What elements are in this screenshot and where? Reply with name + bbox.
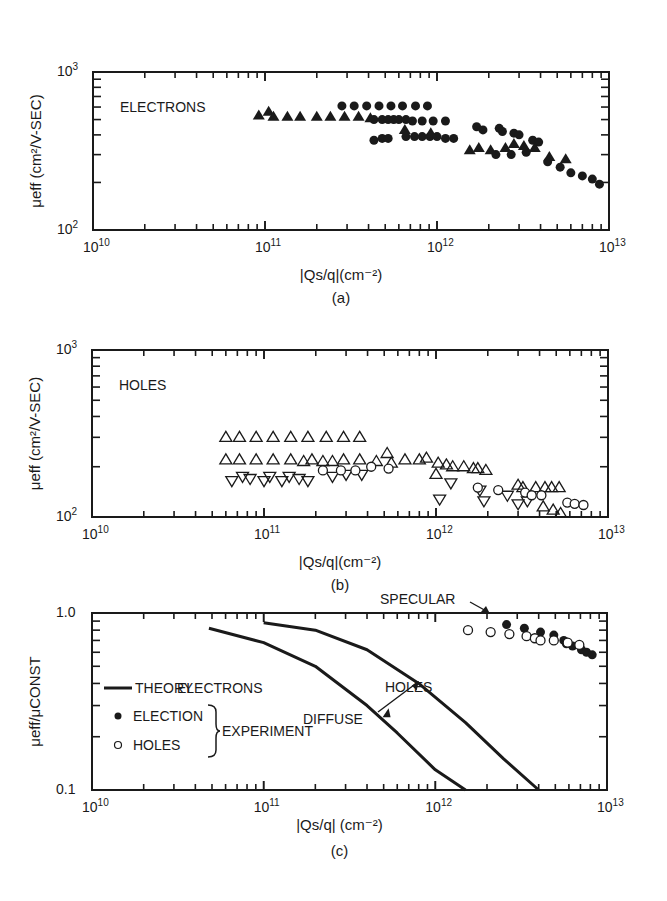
filled-triangle-marker — [281, 111, 293, 121]
filled-circle-marker — [410, 132, 419, 141]
open-triangle-up-marker — [285, 454, 297, 464]
open-triangle-up-marker — [233, 454, 245, 464]
y-axis-label: μeff/μCONST — [26, 656, 43, 746]
open-circle-marker — [494, 486, 503, 495]
filled-circle-marker — [398, 101, 407, 110]
open-circle-marker — [336, 466, 345, 475]
open-triangle-up-marker — [338, 431, 350, 441]
legend-experiment-label: EXPERIMENT — [222, 723, 313, 739]
open-circle-marker — [570, 499, 579, 508]
legend-holes-marker — [115, 742, 122, 749]
x-axis-label: |Qs/q| (cm⁻²) — [296, 816, 383, 833]
diffuse-arrowhead — [383, 708, 391, 717]
y-axis-label: μeff (cm²/V-SEC) — [27, 94, 44, 207]
open-circle-marker — [486, 628, 495, 637]
filled-triangle-marker — [339, 111, 351, 121]
filled-circle-marker — [337, 101, 346, 110]
x-tick-label: 1013 — [599, 237, 626, 255]
open-triangle-up-marker — [320, 431, 332, 441]
open-circle-marker — [367, 462, 376, 471]
y-tick-label: 0.1 — [56, 781, 76, 797]
filled-circle-marker — [478, 125, 487, 134]
filled-triangle-marker — [294, 111, 306, 121]
legend-holes-label: HOLES — [133, 737, 180, 753]
open-triangle-up-marker — [354, 454, 366, 464]
filled-circle-marker — [369, 136, 378, 145]
filled-circle-marker — [429, 116, 438, 125]
filled-circle-marker — [595, 180, 604, 189]
y-tick-label: 102 — [56, 506, 78, 524]
open-triangle-up-marker — [267, 431, 279, 441]
x-tick-label: 1013 — [597, 797, 624, 815]
open-circle-marker — [579, 500, 588, 509]
legend-electron-label: ELECTION — [133, 708, 203, 724]
open-triangle-up-marker — [250, 454, 262, 464]
open-triangle-down-marker — [326, 472, 338, 482]
open-triangle-up-marker — [220, 454, 232, 464]
open-triangle-down-marker — [302, 477, 314, 487]
legend-theory-label: THEORY — [135, 680, 194, 696]
filled-circle-marker — [502, 620, 511, 629]
panel-c: 10101011101210131.00.1μeff/μCONST|Qs/q| … — [26, 591, 624, 859]
open-circle-marker — [575, 640, 584, 649]
panel-caption: (c) — [331, 842, 349, 859]
filled-circle-marker — [449, 134, 458, 143]
filled-triangle-marker — [560, 153, 572, 163]
open-circle-marker — [318, 466, 327, 475]
open-triangle-down-marker — [258, 477, 270, 487]
filled-triangle-marker — [464, 144, 476, 154]
specular-label: SPECULAR — [380, 591, 455, 607]
filled-circle-marker — [362, 101, 371, 110]
filled-circle-marker — [418, 116, 427, 125]
open-triangle-up-marker — [430, 468, 442, 478]
open-circle-marker — [527, 491, 536, 500]
panel-caption: (a) — [332, 289, 350, 306]
panel-annotation: ELECTRONS — [120, 99, 206, 115]
open-triangle-down-marker — [478, 497, 490, 507]
theory-curve — [209, 628, 466, 790]
filled-circle-marker — [384, 134, 393, 143]
theory-curve — [264, 623, 539, 790]
filled-triangle-marker — [508, 138, 520, 148]
y-axis-label: μeff (cm²/V-SEC) — [26, 377, 43, 490]
x-tick-label: 1010 — [82, 797, 109, 815]
figure: 1010101110121013103102ELECTRONSμeff (cm²… — [0, 0, 667, 901]
x-axis-label: |Qs/q|(cm⁻²) — [299, 553, 381, 570]
x-tick-label: 1011 — [254, 797, 280, 815]
open-triangle-up-marker — [420, 452, 432, 462]
filled-circle-marker — [578, 171, 587, 180]
filled-circle-marker — [350, 101, 359, 110]
filled-triangle-marker — [399, 124, 411, 134]
filled-triangle-marker — [311, 111, 323, 121]
open-triangle-up-marker — [458, 461, 470, 471]
filled-triangle-marker — [485, 144, 497, 154]
open-triangle-up-marker — [512, 479, 524, 489]
open-circle-marker — [537, 491, 546, 500]
x-tick-label: 1010 — [83, 237, 110, 255]
holes-curve-label: HOLES — [385, 679, 432, 695]
filled-circle-marker — [408, 116, 417, 125]
filled-circle-marker — [386, 101, 395, 110]
open-triangle-down-marker — [434, 495, 446, 505]
panel-caption: (b) — [331, 576, 349, 593]
open-circle-marker — [536, 636, 545, 645]
filled-circle-marker — [556, 163, 565, 172]
open-circle-marker — [464, 626, 473, 635]
panel-b: 1010101110121013103102HOLESμeff (cm²/V-S… — [26, 339, 625, 593]
open-triangle-up-marker — [338, 454, 350, 464]
filled-circle-marker — [441, 134, 450, 143]
open-triangle-up-marker — [354, 431, 366, 441]
data-series — [337, 101, 604, 188]
open-circle-marker — [549, 636, 558, 645]
x-tick-label: 1012 — [425, 797, 452, 815]
open-triangle-down-marker — [445, 479, 457, 489]
x-tick-label: 1012 — [426, 524, 453, 542]
filled-circle-marker — [374, 101, 383, 110]
legend-electron-marker — [115, 713, 122, 720]
panel-a: 1010101110121013103102ELECTRONSμeff (cm²… — [27, 61, 626, 306]
filled-circle-marker — [441, 116, 450, 125]
y-tick-label: 103 — [56, 339, 78, 357]
open-triangle-up-marker — [285, 431, 297, 441]
x-axis-label: |Qs/q|(cm⁻²) — [300, 266, 382, 283]
open-circle-marker — [505, 630, 514, 639]
